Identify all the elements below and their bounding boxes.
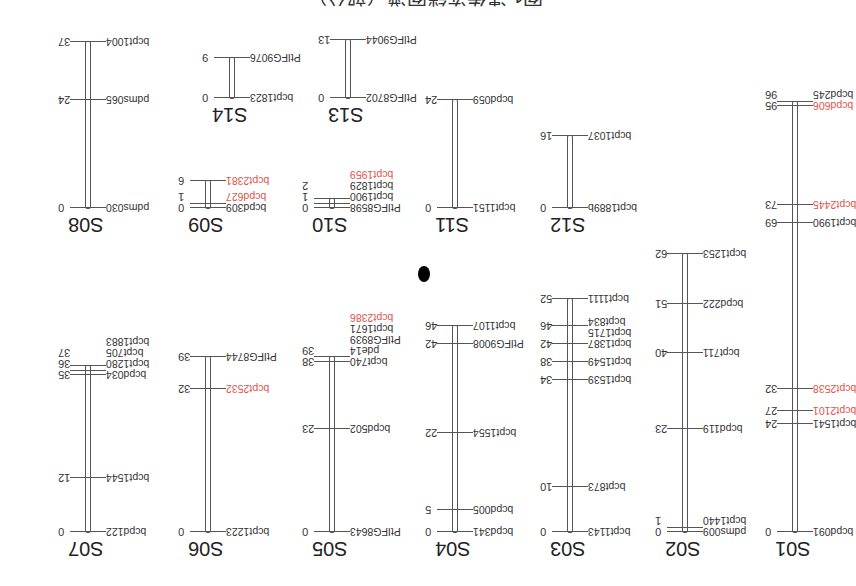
marker-position: 42 (425, 338, 437, 349)
group-name: S08 (68, 213, 104, 236)
marker-position: 0 (58, 202, 64, 213)
chromosome-bar (205, 356, 211, 533)
marker-position: 39 (178, 351, 190, 362)
marker-position: 0 (302, 526, 308, 537)
marker-position: 37 (58, 347, 70, 358)
marker-tick (437, 207, 473, 208)
marker-position: 12 (58, 472, 70, 483)
marker-tick (214, 97, 250, 98)
marker-name: bcpt1111 (588, 293, 629, 304)
marker-tick (70, 99, 106, 100)
marker-tick (667, 531, 703, 532)
marker-position: 38 (540, 356, 552, 367)
marker-name: bcpt1671 (350, 323, 393, 334)
marker-position: 24 (425, 94, 437, 105)
marker-position: 1 (655, 515, 661, 526)
marker-tick (314, 361, 350, 362)
marker-name: bcpt1387 (588, 338, 631, 349)
marker-name: bcpt1549 (588, 356, 631, 367)
marker-position: 0 (318, 92, 324, 103)
marker-position: 39 (302, 345, 314, 356)
group-name: S09 (188, 213, 224, 236)
marker-tick (552, 298, 588, 299)
marker-tick (70, 365, 106, 366)
marker-tick (777, 204, 813, 205)
marker-position: 23 (302, 423, 314, 434)
marker-position: 32 (178, 383, 190, 394)
marker-tick (330, 97, 366, 98)
marker-tick (314, 198, 350, 199)
marker-tick (70, 370, 106, 371)
marker-tick (437, 99, 473, 100)
marker-position: 40 (655, 347, 667, 358)
marker-tick (552, 361, 588, 362)
marker-tick (667, 352, 703, 353)
group-name: S06 (188, 537, 224, 560)
marker-position: 6 (178, 175, 184, 186)
marker-name: bcpt1107 (473, 320, 515, 331)
center-dot (418, 266, 430, 282)
group-name: S07 (68, 537, 104, 560)
marker-name: bcpt1959 (350, 169, 393, 180)
figure-title: 图1 遗传连锁图谱（部分） (300, 0, 550, 12)
marker-name: bcpt2532 (226, 383, 269, 394)
marker-name: PtIFG9076 (250, 52, 301, 63)
marker-name: pdms065 (106, 94, 149, 105)
marker-tick (777, 101, 813, 102)
marker-tick (70, 374, 106, 375)
marker-tick (777, 423, 813, 424)
marker-position: 24 (58, 94, 70, 105)
marker-name: bcpt1544 (106, 472, 149, 483)
marker-tick (314, 428, 350, 429)
marker-position: 95 (765, 100, 777, 111)
marker-name: bcpt1253 (703, 248, 746, 259)
marker-position: 46 (425, 320, 437, 331)
marker-name: bcpt1715 (588, 327, 631, 338)
chromosome-bar (567, 298, 573, 533)
marker-name: bcpt873 (588, 481, 625, 492)
marker-position: 0 (178, 202, 184, 213)
marker-tick (667, 253, 703, 254)
marker-name: pde14 (350, 345, 379, 356)
marker-position: 5 (425, 504, 431, 515)
marker-name: bcpd122 (106, 526, 146, 537)
marker-tick (552, 343, 588, 344)
chromosome-bar (452, 99, 458, 209)
chromosome-bar (205, 180, 211, 209)
marker-name: PtIFG8702 (366, 92, 417, 103)
marker-position: 27 (765, 405, 777, 416)
marker-tick (214, 57, 250, 58)
marker-name: bcpd119 (703, 423, 743, 434)
group-name: S12 (550, 213, 586, 236)
group-name: S03 (550, 537, 586, 560)
marker-position: 10 (540, 481, 552, 492)
marker-name: bcpd005 (473, 504, 513, 515)
marker-name: PtIFG8939 (350, 334, 401, 345)
marker-position: 0 (425, 526, 431, 537)
marker-name: bcpd222 (703, 298, 743, 309)
marker-name: bcpd245 (813, 89, 853, 100)
marker-name: PtIFG8598 (350, 202, 401, 213)
marker-name: bcpt1883 (106, 336, 149, 347)
marker-tick (667, 527, 703, 528)
marker-position: 36 (58, 358, 70, 369)
marker-name: bcpt1440 (703, 515, 746, 526)
marker-position: 0 (302, 202, 308, 213)
marker-name: bcpt1037 (588, 130, 631, 141)
marker-tick (314, 356, 350, 357)
marker-name: PtIFG9008 (473, 338, 524, 349)
chromosome-bar (85, 365, 91, 533)
marker-tick (777, 222, 813, 223)
chromosome-bar (229, 57, 235, 99)
marker-name: bcpt711 (703, 347, 740, 358)
marker-name: bcpd606 (813, 100, 853, 111)
marker-position: 35 (58, 369, 70, 380)
marker-name: bcpt1829 (350, 180, 393, 191)
marker-position: 23 (655, 423, 667, 434)
marker-tick (667, 428, 703, 429)
marker-tick (314, 203, 350, 204)
marker-tick (777, 531, 813, 532)
marker-position: 38 (302, 356, 314, 367)
group-name: S04 (435, 537, 471, 560)
marker-position: 42 (540, 338, 552, 349)
